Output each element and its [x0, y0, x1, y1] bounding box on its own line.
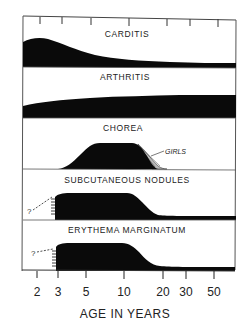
carditis-area [23, 38, 236, 68]
x-axis-title: AGE IN YEARS [80, 307, 170, 321]
bottom-ticks [37, 271, 214, 279]
x-tick-10: 10 [117, 285, 131, 299]
panel-label-carditis: CARDITIS [105, 29, 149, 39]
x-tick-20: 20 [156, 285, 170, 299]
panel-arthritis: ARTHRITIS [23, 72, 236, 118]
x-tick-5: 5 [83, 285, 90, 299]
arthritis-area [23, 95, 236, 118]
ragged-edge-erythema [52, 251, 56, 266]
subcutaneous-nodules-area [55, 193, 236, 220]
top-ticks [40, 17, 218, 27]
ragged-edge-nodules [51, 199, 55, 214]
panel-erythema-marginatum: ERYTHEMA MARGINATUM ? [22, 225, 235, 271]
panel-label-erythema-marginatum: ERYTHEMA MARGINATUM [68, 225, 186, 235]
rheumatic-fever-manifestations-chart: CARDITIS ARTHRITIS CHOREA GIRLS SUBCUTAN… [0, 0, 250, 328]
x-tick-30: 30 [179, 285, 193, 299]
uncertain-marker-nodules: ? [27, 207, 32, 216]
panel-carditis: CARDITIS [23, 29, 236, 68]
panel-label-chorea: CHOREA [103, 123, 143, 133]
girls-annotation: GIRLS [165, 148, 186, 155]
panel-subcutaneous-nodules: SUBCUTANEOUS NODULES ? [23, 175, 236, 220]
panel-label-arthritis: ARTHRITIS [100, 72, 150, 82]
x-tick-2: 2 [34, 285, 41, 299]
x-axis-tick-labels: 2 3 5 10 20 30 50 [34, 285, 221, 299]
panel-chorea: CHOREA GIRLS [23, 123, 236, 170]
erythema-marginatum-area [56, 243, 235, 271]
x-tick-3: 3 [55, 285, 62, 299]
panel-label-subcutaneous-nodules: SUBCUTANEOUS NODULES [64, 175, 190, 185]
uncertain-marker-erythema: ? [31, 249, 36, 258]
x-tick-50: 50 [207, 285, 221, 299]
chorea-area [58, 143, 158, 169]
